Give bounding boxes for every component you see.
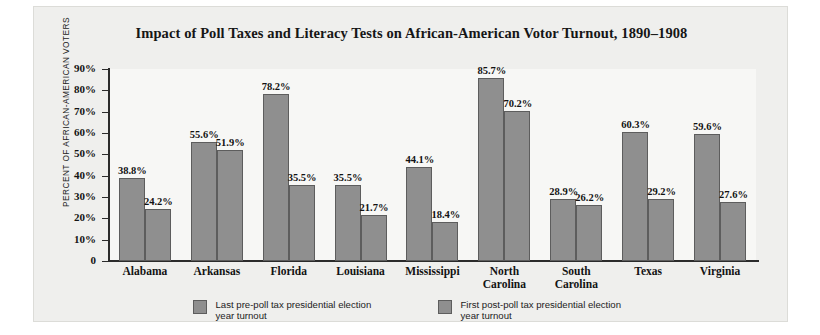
bar[interactable] (648, 199, 674, 261)
x-axis-category-label: South Carolina (540, 265, 612, 290)
bar-group: 78.2%35.5% (253, 69, 325, 261)
bar-value-label: 78.2% (262, 81, 291, 92)
bar-group: 28.9%26.2% (540, 69, 612, 261)
y-axis-tick (102, 112, 109, 113)
chart-legend: Last pre-poll tax presidential election … (34, 299, 789, 321)
y-axis-tick-label: 30% (32, 190, 96, 202)
chart-figure-card: Impact of Poll Taxes and Literacy Tests … (33, 6, 788, 322)
legend-swatch-icon (438, 300, 452, 314)
y-axis-tick-label: 10% (32, 233, 96, 245)
bar-value-label: 70.2% (503, 98, 532, 109)
x-axis-category-label: Alabama (109, 265, 181, 278)
bar-value-label: 27.6% (719, 189, 748, 200)
y-axis-tick-label: 80% (32, 83, 96, 95)
bar[interactable] (720, 202, 746, 261)
bar[interactable] (478, 78, 504, 261)
y-axis-tick (102, 154, 109, 155)
legend-item[interactable]: Last pre-poll tax presidential election … (193, 299, 386, 321)
bar[interactable] (432, 222, 458, 261)
bar-group: 59.6%27.6% (684, 69, 756, 261)
bar-value-label: 55.6% (190, 129, 219, 140)
bar-value-label: 24.2% (144, 196, 173, 207)
bar[interactable] (694, 134, 720, 261)
bar-value-label: 35.5% (334, 172, 363, 183)
bar[interactable] (504, 111, 530, 261)
bar-value-label: 51.9% (216, 137, 245, 148)
bar-value-label: 60.3% (621, 119, 650, 130)
legend-label: First post-poll tax presidential electio… (461, 299, 631, 321)
x-axis-category-label: Arkansas (181, 265, 253, 278)
bar-group: 60.3%29.2% (612, 69, 684, 261)
legend-item[interactable]: First post-poll tax presidential electio… (438, 299, 631, 321)
bar-value-label: 28.9% (549, 186, 578, 197)
bar[interactable] (217, 150, 243, 261)
y-axis-tick (102, 69, 109, 70)
y-axis-tick (102, 197, 109, 198)
y-axis-tick (102, 133, 109, 134)
bar-value-label: 26.2% (575, 192, 604, 203)
bar[interactable] (406, 167, 432, 261)
bar[interactable] (289, 185, 315, 261)
y-axis-tick (102, 261, 109, 262)
bar[interactable] (263, 94, 289, 261)
legend-label: Last pre-poll tax presidential election … (216, 299, 386, 321)
bar[interactable] (145, 209, 171, 261)
legend-swatch-icon (193, 300, 207, 314)
y-axis-tick (102, 218, 109, 219)
y-axis-tick-label: 40% (32, 169, 96, 181)
y-axis-tick (102, 90, 109, 91)
bar-value-label: 35.5% (288, 172, 317, 183)
bar[interactable] (576, 205, 602, 261)
bar[interactable] (622, 132, 648, 261)
x-axis-category-label: Louisiana (325, 265, 397, 278)
bar-value-label: 29.2% (647, 186, 676, 197)
bar-group: 55.6%51.9% (181, 69, 253, 261)
bar-group: 38.8%24.2% (109, 69, 181, 261)
y-axis-tick-label: 60% (32, 126, 96, 138)
bar-value-label: 21.7% (360, 202, 389, 213)
plot-wrapper: PERCENT OF AFRICAN-AMERICAN VOTERS 90%80… (34, 7, 789, 323)
bar[interactable] (550, 199, 576, 261)
x-axis-category-label: North Carolina (468, 265, 540, 290)
x-axis-category-labels: AlabamaArkansasFloridaLouisianaMississip… (109, 265, 756, 297)
bar[interactable] (335, 185, 361, 261)
x-axis-category-label: Texas (612, 265, 684, 278)
bar-group: 44.1%18.4% (397, 69, 469, 261)
bar[interactable] (361, 215, 387, 261)
y-axis-tick (102, 240, 109, 241)
x-axis-category-label: Virginia (684, 265, 756, 278)
bar-value-label: 59.6% (693, 121, 722, 132)
bar-value-label: 18.4% (431, 209, 460, 220)
y-axis-tick-label: 0 (32, 254, 96, 266)
x-axis-category-label: Mississippi (397, 265, 469, 278)
bar-group: 85.7%70.2% (468, 69, 540, 261)
bar[interactable] (119, 178, 145, 261)
y-axis-tick-label: 50% (32, 147, 96, 159)
bar-value-label: 44.1% (405, 154, 434, 165)
y-axis-tick-label: 20% (32, 211, 96, 223)
x-axis-category-label: Florida (253, 265, 325, 278)
bar[interactable] (191, 142, 217, 261)
y-axis-tick-label: 90% (32, 62, 96, 74)
bar-value-label: 38.8% (118, 165, 147, 176)
y-axis-tick-label: 70% (32, 105, 96, 117)
bar-value-label: 85.7% (477, 65, 506, 76)
bars-layer: 38.8%24.2%55.6%51.9%78.2%35.5%35.5%21.7%… (109, 69, 756, 261)
bar-group: 35.5%21.7% (325, 69, 397, 261)
y-axis-tick (102, 176, 109, 177)
